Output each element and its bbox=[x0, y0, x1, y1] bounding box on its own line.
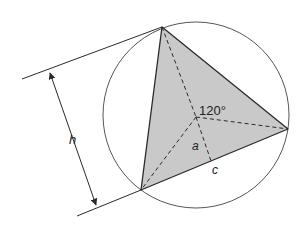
extension-line-bottom bbox=[77, 190, 141, 216]
height-label: h bbox=[69, 132, 76, 147]
apothem-label: a bbox=[192, 139, 199, 153]
extension-line-top bbox=[22, 27, 162, 79]
angle-label: 120° bbox=[199, 103, 226, 118]
diagram-canvas: 120° a c h bbox=[0, 0, 306, 226]
side-label: c bbox=[212, 163, 218, 177]
